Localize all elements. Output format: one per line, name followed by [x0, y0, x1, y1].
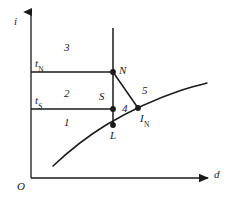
- point-label-l: L: [110, 130, 116, 141]
- isotherm-label-ts: tS: [35, 95, 42, 109]
- point-label-n: N: [119, 65, 126, 76]
- label-i-n: IN: [140, 113, 149, 127]
- point-label-s: S: [99, 91, 105, 102]
- region-label-4: 4: [122, 103, 128, 114]
- isotherm-label-tn: tN: [35, 58, 43, 72]
- region-label-5: 5: [142, 85, 148, 96]
- x-axis-label: d: [214, 169, 220, 180]
- point-marker-in: [135, 105, 141, 111]
- region-label-1: 1: [64, 117, 70, 128]
- point-marker-n: [110, 69, 116, 75]
- isotherm-label-tn-sub: N: [38, 65, 43, 74]
- point-marker-l: [110, 122, 116, 128]
- y-axis-label: i: [14, 16, 17, 27]
- isotherm-label-ts-sub: S: [38, 102, 42, 111]
- phase-diagram-figure: i d O tN tS 1 2 3 4 5 N S L IN: [0, 0, 230, 198]
- region-label-2: 2: [64, 88, 70, 99]
- label-i-n-sub: N: [144, 120, 149, 129]
- region-label-3: 3: [64, 42, 70, 53]
- origin-label: O: [17, 181, 25, 192]
- point-marker-s: [110, 106, 116, 112]
